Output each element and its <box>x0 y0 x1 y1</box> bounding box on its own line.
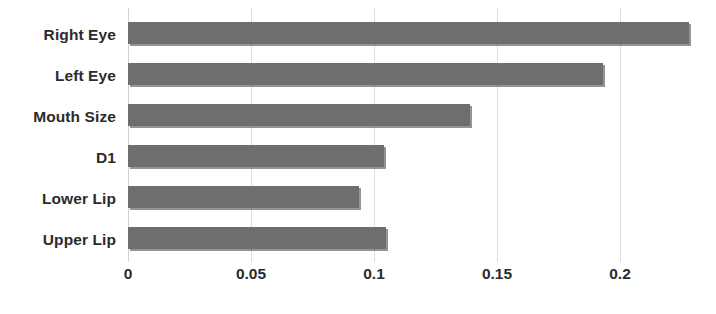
x-axis: 0 0.05 0.1 0.15 0.2 <box>0 266 716 306</box>
x-tick-label-0: 0 <box>124 266 133 282</box>
bar-right-eye <box>128 22 689 44</box>
bar-upper-lip <box>128 227 386 249</box>
bar-mouth-size <box>128 104 470 126</box>
bar-left-eye <box>128 63 603 85</box>
x-tick-label-4: 0.2 <box>609 266 631 282</box>
bar-lower-lip <box>128 186 359 208</box>
bar-chart: Right Eye Left Eye Mouth Size D1 Lower L… <box>0 0 716 314</box>
plot-area <box>128 8 716 262</box>
y-axis-label-1: Left Eye <box>0 68 116 84</box>
gridline-0.15 <box>497 8 498 262</box>
x-tick-label-3: 0.15 <box>482 266 512 282</box>
x-tick-label-2: 0.1 <box>363 266 385 282</box>
gridline-0.05 <box>251 8 252 262</box>
y-axis-label-0: Right Eye <box>0 27 116 43</box>
y-axis-label-4: Lower Lip <box>0 191 116 207</box>
y-axis-label-3: D1 <box>0 150 116 166</box>
y-axis-label-2: Mouth Size <box>0 109 116 125</box>
gridline-0.1 <box>374 8 375 262</box>
gridline-0 <box>128 8 129 262</box>
y-axis-label-5: Upper Lip <box>0 232 116 248</box>
gridline-0.2 <box>620 8 621 262</box>
bar-d1 <box>128 145 384 167</box>
x-tick-label-1: 0.05 <box>236 266 266 282</box>
y-axis-category-labels: Right Eye Left Eye Mouth Size D1 Lower L… <box>0 0 122 262</box>
